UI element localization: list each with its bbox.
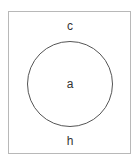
venn-diagram: c a h [0, 0, 134, 168]
set-a-label: a [67, 77, 74, 91]
universe-label-top: c [67, 19, 73, 33]
universe-label-bottom: h [67, 134, 74, 148]
